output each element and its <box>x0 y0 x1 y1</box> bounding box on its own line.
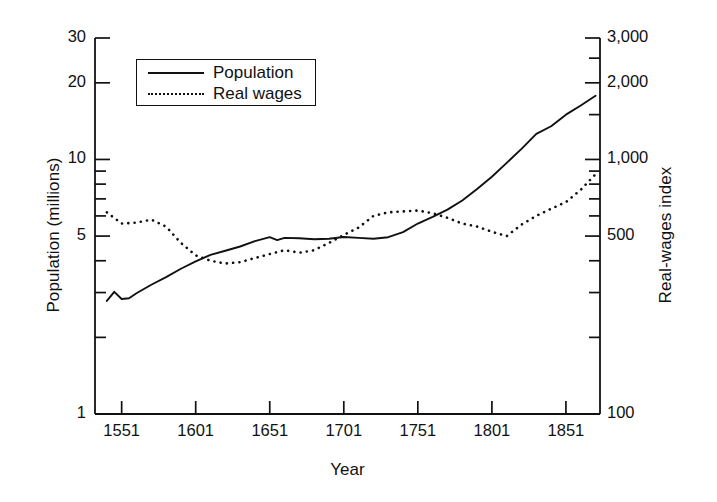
chart-figure: Population (millions) Real-wages index Y… <box>0 0 717 502</box>
y-tick-label-right: 3,000 <box>607 27 648 46</box>
y-axis-right-ticks <box>585 38 600 414</box>
x-tick-label: 1701 <box>325 421 362 440</box>
x-axis-ticks <box>122 401 566 414</box>
x-tick-label: 1601 <box>177 421 214 440</box>
legend-label-population: Population <box>213 63 293 83</box>
y-tick-label-right: 2,000 <box>607 72 648 91</box>
y-tick-label-left: 1 <box>30 403 86 422</box>
solid-line-key <box>148 67 204 79</box>
legend-item-population: Population <box>137 62 315 83</box>
y-tick-label-left: 20 <box>30 72 86 91</box>
y-tick-label-right: 500 <box>607 225 635 244</box>
y-tick-label-right: 1,000 <box>607 148 648 167</box>
legend-item-real-wages: Real wages <box>137 83 315 104</box>
x-tick-label: 1551 <box>103 421 140 440</box>
x-tick-label: 1801 <box>474 421 511 440</box>
x-tick-label: 1751 <box>399 421 436 440</box>
y-tick-label-left: 5 <box>30 225 86 244</box>
legend-label-real-wages: Real wages <box>213 84 302 104</box>
dotted-line-key <box>148 88 204 100</box>
y-tick-label-left: 30 <box>30 27 86 46</box>
y-tick-label-left: 10 <box>30 148 86 167</box>
legend: Population Real wages <box>136 59 316 106</box>
series-line-population <box>107 96 596 301</box>
series-line-real-wages <box>107 174 596 263</box>
y-tick-label-right: 100 <box>607 403 635 422</box>
x-tick-label: 1651 <box>251 421 288 440</box>
x-tick-label: 1851 <box>548 421 585 440</box>
y-axis-left-ticks <box>95 38 110 414</box>
